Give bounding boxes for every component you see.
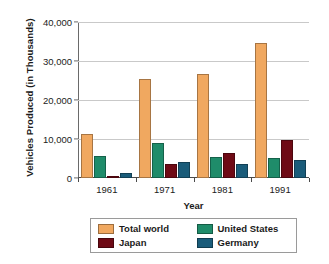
bar-united-states-1961 xyxy=(94,22,106,178)
legend-item-germany[interactable]: Germany xyxy=(197,237,292,248)
y-axis-title: Vehicles Produced (in Thousands) xyxy=(24,8,35,188)
chart-screenshot: Vehicles Produced (in Thousands) 010,000… xyxy=(0,0,329,264)
bar-group-1991: 1991 xyxy=(251,22,309,178)
y-tick-label-20000: 20,000 xyxy=(43,95,78,106)
x-tick-mark-1991 xyxy=(251,178,252,182)
bar-germany-1991 xyxy=(294,22,306,178)
bar-group-1961: 1961 xyxy=(78,22,136,178)
bar-fill xyxy=(94,156,106,178)
legend-item-united-states[interactable]: United States xyxy=(197,223,292,234)
x-tick-mark-1961 xyxy=(78,178,79,182)
legend-item-japan[interactable]: Japan xyxy=(98,237,193,248)
plot-area: 010,00020,00030,00040,000 19611971198119… xyxy=(78,22,309,178)
bar-germany-1961 xyxy=(120,22,132,178)
x-axis-title: Year xyxy=(78,200,309,211)
legend-swatch-icon xyxy=(98,224,114,234)
bar-germany-1981 xyxy=(236,22,248,178)
bar-fill xyxy=(165,164,177,178)
bar-fill xyxy=(281,140,293,178)
bar-fill xyxy=(139,79,151,178)
x-tick-label-1981: 1981 xyxy=(194,184,252,195)
bar-fill xyxy=(120,173,132,178)
chart-legend: Total worldUnited StatesJapanGermany xyxy=(90,218,297,253)
y-tick-label-0: 0 xyxy=(67,173,78,184)
bar-japan-1971 xyxy=(165,22,177,178)
bar-germany-1971 xyxy=(178,22,190,178)
legend-swatch-icon xyxy=(197,224,213,234)
legend-label: United States xyxy=(218,223,279,234)
bar-fill xyxy=(107,176,119,178)
y-tick-label-30000: 30,000 xyxy=(43,56,78,67)
legend-item-total-world[interactable]: Total world xyxy=(98,223,193,234)
bar-fill xyxy=(255,43,267,178)
x-tick-label-1971: 1971 xyxy=(136,184,194,195)
bar-fill xyxy=(81,134,93,178)
bar-total-world-1991 xyxy=(255,22,267,178)
x-tick-mark-end xyxy=(309,178,310,182)
legend-label: Total world xyxy=(119,223,169,234)
bar-united-states-1971 xyxy=(152,22,164,178)
bar-fill xyxy=(152,143,164,178)
bar-total-world-1961 xyxy=(81,22,93,178)
bar-total-world-1981 xyxy=(197,22,209,178)
x-tick-mark-1971 xyxy=(136,178,137,182)
y-tick-label-40000: 40,000 xyxy=(43,17,78,28)
bar-japan-1991 xyxy=(281,22,293,178)
legend-swatch-icon xyxy=(98,238,114,248)
x-tick-label-1961: 1961 xyxy=(78,184,136,195)
bar-fill xyxy=(236,164,248,178)
bar-united-states-1981 xyxy=(210,22,222,178)
bar-japan-1981 xyxy=(223,22,235,178)
bar-fill xyxy=(210,157,222,178)
legend-swatch-icon xyxy=(197,238,213,248)
bar-united-states-1991 xyxy=(268,22,280,178)
y-tick-label-10000: 10,000 xyxy=(43,134,78,145)
bar-fill xyxy=(178,162,190,178)
bar-total-world-1971 xyxy=(139,22,151,178)
x-tick-mark-1981 xyxy=(194,178,195,182)
legend-label: Japan xyxy=(119,237,146,248)
bar-japan-1961 xyxy=(107,22,119,178)
bar-fill xyxy=(268,158,280,178)
bar-fill xyxy=(197,74,209,178)
legend-label: Germany xyxy=(218,237,259,248)
bar-fill xyxy=(294,160,306,178)
x-tick-label-1991: 1991 xyxy=(251,184,309,195)
bar-fill xyxy=(223,153,235,178)
bar-groups: 1961197119811991 xyxy=(78,22,309,178)
bar-group-1971: 1971 xyxy=(136,22,194,178)
bar-group-1981: 1981 xyxy=(194,22,252,178)
